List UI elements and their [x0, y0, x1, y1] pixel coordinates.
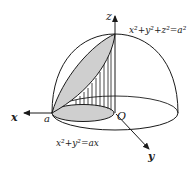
y-axis-label: y [147, 150, 156, 163]
z-axis-label: z [105, 10, 112, 23]
origin-label: O [117, 110, 126, 123]
hemisphere-diagram: z x y O a x²+y²+z²=a² x²+y²=ax [0, 0, 194, 184]
point-a-label: a [44, 113, 50, 124]
sphere-equation: x²+y²+z²=a² [129, 25, 187, 35]
intersection-surface [52, 34, 115, 113]
cylinder-equation: x²+y²=ax [56, 138, 99, 148]
x-axis-label: x [10, 111, 18, 124]
